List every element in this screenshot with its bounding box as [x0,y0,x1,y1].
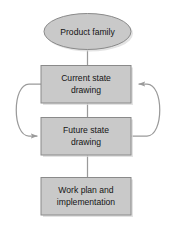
node-future-state-drawing-line-2: drawing [71,137,101,147]
connector-left-feedback-loop [16,84,41,136]
flowchart-diagram: Product family Current state drawing Fut… [0,0,178,229]
node-current-state-drawing-line-2: drawing [71,85,101,95]
connector-right-feedback-loop [131,84,160,136]
node-work-plan-implementation[interactable]: Work plan and implementation [41,178,133,218]
flowchart-canvas: Product family Current state drawing Fut… [0,0,178,229]
node-work-plan-implementation-line-1: Work plan and [58,185,113,195]
node-current-state-drawing[interactable]: Current state drawing [41,66,133,106]
node-work-plan-implementation-line-2: implementation [57,197,115,207]
node-product-family-line-1: Product family [60,27,115,37]
node-product-family[interactable]: Product family [44,14,133,52]
node-future-state-drawing[interactable]: Future state drawing [41,118,133,158]
node-current-state-drawing-line-1: Current state [61,73,111,83]
node-future-state-drawing-line-1: Future state [63,125,109,135]
